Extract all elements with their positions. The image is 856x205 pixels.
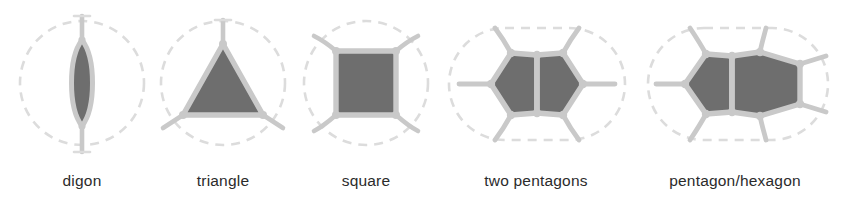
square-diagram	[296, 0, 436, 165]
polygon-cells-figure: digon triangle square two pentagons pent…	[0, 0, 856, 205]
panel-triangle	[152, 0, 294, 165]
digon-cell	[72, 40, 93, 126]
caption-triangle: triangle	[142, 173, 304, 189]
caption-digon: digon	[0, 173, 164, 189]
square-cell	[336, 51, 396, 115]
caption-two-pentagons: two pentagons	[436, 173, 636, 189]
pentagon-left-cell	[491, 53, 537, 115]
pentagon-right-cell	[537, 53, 583, 115]
panel-digon	[12, 0, 152, 165]
caption-pentagon-hexagon: pentagon/hexagon	[635, 173, 835, 189]
panel-square	[296, 0, 436, 165]
hexagon-cell	[732, 52, 800, 116]
digon-diagram	[12, 0, 152, 165]
panel-pentagon-hexagon	[640, 0, 836, 165]
triangle-diagram	[152, 0, 294, 165]
panel-two-pentagons	[443, 0, 631, 165]
two-pentagons-diagram	[443, 0, 631, 165]
pentagon-cell	[685, 54, 732, 114]
triangle-cell	[183, 44, 263, 115]
pentagon-hexagon-diagram	[640, 0, 836, 165]
caption-square: square	[286, 173, 446, 189]
